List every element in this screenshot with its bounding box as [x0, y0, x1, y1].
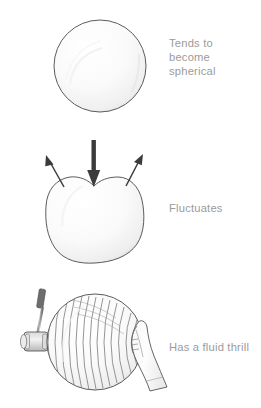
panel-3-fluid-thrill-illustration [21, 289, 168, 391]
hammer-head-cap [21, 335, 27, 349]
examining-hand [131, 321, 167, 391]
panel-2-fluctuation-illustration [45, 140, 144, 263]
percussion-hammer [21, 289, 49, 351]
expansion-left-arrow [45, 155, 64, 187]
figure-root: Tends to become spherical Fluctuates Has… [0, 0, 261, 408]
hammer-handle-grip [36, 289, 45, 309]
caption-fluctuates: Fluctuates [169, 201, 223, 215]
caption-has-a-fluid-thrill: Has a fluid thrill [169, 340, 249, 354]
blob-body [46, 177, 144, 263]
sphere-body [47, 294, 143, 390]
sphere-body [54, 20, 146, 112]
panel-1-sphere-illustration [54, 20, 146, 112]
compression-down-arrow [87, 140, 100, 187]
hammer-head-collar-right [43, 334, 48, 349]
expansion-right-arrow [126, 154, 143, 186]
caption-tends-to-become-spherical: Tends to become spherical [169, 36, 216, 79]
